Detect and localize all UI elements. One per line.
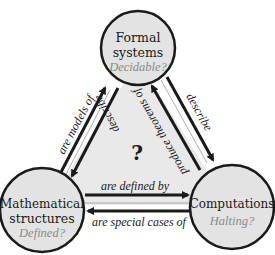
label-are-special-cases-of: are special cases of [92, 215, 188, 229]
node-mathematical-structures: Mathematical structures Defined? [0, 168, 84, 252]
diagram: are models of describe describe produce … [0, 0, 275, 255]
center-question-mark: ? [131, 141, 143, 165]
node-formal-question: Decidable? [108, 60, 167, 74]
diagram-canvas: are models of describe describe produce … [0, 0, 275, 255]
node-math-title-1: Mathematical [0, 197, 84, 211]
node-comp-title: Computations [190, 197, 275, 211]
label-describe-right: describe [183, 91, 215, 134]
node-formal-systems: Formal systems Decidable? [101, 11, 175, 85]
node-math-title-2: structures [9, 211, 74, 226]
node-computations: Computations Halting? [190, 165, 275, 249]
node-math-question: Defined? [18, 226, 66, 240]
node-formal-title-2: systems [113, 45, 164, 60]
node-comp-question: Halting? [209, 214, 255, 228]
label-are-defined-by: are defined by [101, 179, 170, 193]
node-formal-title-1: Formal [116, 30, 161, 45]
